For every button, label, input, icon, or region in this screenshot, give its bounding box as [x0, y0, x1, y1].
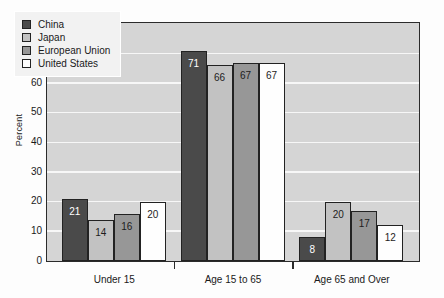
- y-tick-label: 60: [14, 78, 42, 88]
- bar-value-label: 21: [69, 207, 80, 260]
- legend-swatch-icon: [22, 46, 31, 55]
- y-tick-label: 20: [14, 196, 42, 206]
- bar-eu-1: 16: [114, 214, 140, 261]
- legend-swatch-icon: [22, 59, 31, 68]
- legend-item-japan: Japan: [22, 31, 110, 44]
- legend-swatch-icon: [22, 33, 31, 42]
- x-group-label: Under 15: [94, 274, 135, 285]
- x-axis-tick: [292, 262, 294, 269]
- legend-label: European Union: [38, 45, 110, 56]
- bar-us-1: 20: [140, 202, 166, 261]
- bar-eu-3: 17: [351, 211, 377, 261]
- bar-value-label: 20: [333, 210, 344, 260]
- y-tick-label: 50: [14, 107, 42, 117]
- bar-japan-2: 66: [207, 65, 233, 261]
- bar-value-label: 67: [240, 71, 251, 260]
- bar-value-label: 8: [309, 245, 315, 260]
- bar-value-label: 16: [121, 222, 132, 260]
- bar-value-label: 12: [385, 233, 396, 260]
- bar-china-3: 8: [299, 237, 325, 261]
- legend-item-eu: European Union: [22, 44, 110, 57]
- y-tick-label: 10: [14, 226, 42, 236]
- bar-china-2: 71: [181, 51, 207, 261]
- legend-label: China: [38, 19, 64, 30]
- legend: ChinaJapanEuropean UnionUnited States: [14, 11, 121, 77]
- bar-japan-3: 20: [325, 202, 351, 261]
- y-tick-label: 0: [14, 256, 42, 266]
- legend-label: Japan: [38, 32, 65, 43]
- bar-value-label: 66: [214, 73, 225, 260]
- legend-item-china: China: [22, 18, 110, 31]
- legend-swatch-icon: [22, 20, 31, 29]
- bar-japan-1: 14: [88, 220, 114, 261]
- y-tick-label: 40: [14, 137, 42, 147]
- bar-us-2: 67: [259, 63, 285, 261]
- x-axis-tick: [174, 262, 176, 269]
- bar-chart: Percent 01020304050607080 21141620716667…: [0, 0, 444, 298]
- x-group-label: Age 15 to 65: [205, 274, 262, 285]
- bar-us-3: 12: [377, 225, 403, 261]
- bar-eu-2: 67: [233, 63, 259, 261]
- legend-label: United States: [38, 58, 98, 69]
- bar-value-label: 17: [359, 219, 370, 260]
- bar-value-label: 20: [147, 210, 158, 260]
- bar-china-1: 21: [62, 199, 88, 261]
- bar-value-label: 67: [266, 71, 277, 260]
- legend-item-us: United States: [22, 57, 110, 70]
- x-group-label: Age 65 and Over: [314, 274, 390, 285]
- bar-value-label: 71: [188, 59, 199, 260]
- y-tick-label: 30: [14, 167, 42, 177]
- bar-value-label: 14: [95, 228, 106, 260]
